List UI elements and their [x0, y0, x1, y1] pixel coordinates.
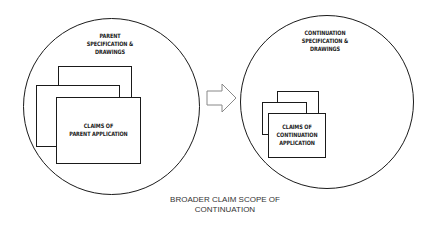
- continuation-spec-label: CONTINUATION SPECIFICATION & DRAWINGS: [292, 29, 358, 53]
- continuation-claims-box: CLAIMS OF CONTINUATION APPLICATION: [268, 113, 326, 158]
- continuation-claims-label: CLAIMS OF CONTINUATION APPLICATION: [274, 123, 320, 147]
- right-arrow-icon: [205, 82, 239, 114]
- parent-spec-label: PARENT SPECIFICATION & DRAWINGS: [77, 32, 143, 56]
- parent-claims-box: CLAIMS OF PARENT APPLICATION: [56, 97, 141, 164]
- parent-claims-label: CLAIMS OF PARENT APPLICATION: [64, 122, 132, 138]
- diagram-caption: BROADER CLAIM SCOPE OF CONTINUATION: [150, 195, 300, 215]
